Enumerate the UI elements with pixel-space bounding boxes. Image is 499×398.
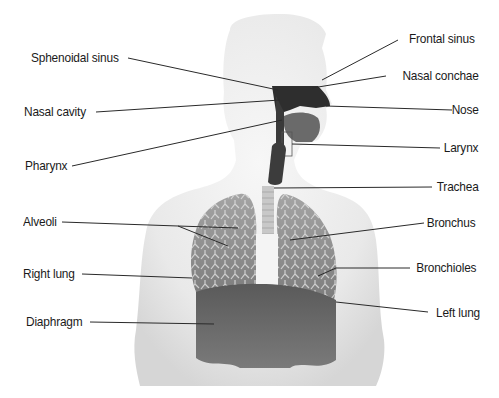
- label-bronchioles: Bronchioles: [416, 260, 476, 276]
- label-sphenoidal-sinus: Sphenoidal sinus: [31, 50, 119, 66]
- label-pharynx: Pharynx: [25, 158, 67, 174]
- label-left-lung: Left lung: [436, 305, 480, 321]
- label-right-lung: Right lung: [23, 266, 75, 282]
- label-bronchus: Bronchus: [426, 215, 475, 231]
- label-frontal-sinus: Frontal sinus: [409, 31, 475, 47]
- label-nose: Nose: [452, 102, 479, 118]
- respiratory-diagram: Sphenoidal sinus Nasal cavity Pharynx Al…: [0, 0, 499, 398]
- label-larynx: Larynx: [443, 140, 478, 156]
- label-alveoli: Alveoli: [23, 214, 57, 230]
- label-nasal-conchae: Nasal conchae: [403, 68, 479, 84]
- label-trachea: Trachea: [437, 179, 479, 195]
- label-nasal-cavity: Nasal cavity: [24, 104, 86, 120]
- label-diaphragm: Diaphragm: [26, 314, 83, 330]
